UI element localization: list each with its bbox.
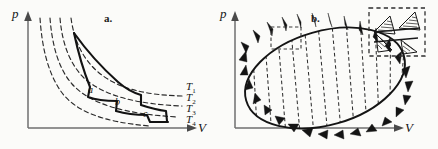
- panel-b-label: b.: [311, 12, 320, 24]
- cycle-point-label-b: b: [115, 96, 120, 107]
- panel-a-cycle: [74, 33, 168, 122]
- inset-arrow-shapes: [374, 12, 420, 54]
- panel-b-axes: [231, 11, 404, 132]
- panel-a-x-axis-label: V: [198, 120, 206, 136]
- panel-b-y-axis-label: p: [220, 6, 227, 22]
- isotherm-label-t4: T4: [186, 113, 196, 128]
- x-axis-arrowhead: [394, 124, 404, 132]
- panel-a-label: a.: [104, 12, 112, 24]
- isotherm-curve-2: [60, 18, 182, 106]
- figure-container: a. p V T1 T2 T3 T4 a b c: [0, 0, 438, 149]
- panel-b-x-axis-label: V: [405, 120, 413, 136]
- isotherm-curve-3: [50, 18, 178, 117]
- panel-a: a. p V T1 T2 T3 T4 a b c: [0, 0, 219, 149]
- isotherm-label-t4-sub: 4: [192, 120, 196, 128]
- cycle-point-label-c: c: [143, 108, 147, 119]
- panel-a-y-axis-label: p: [12, 6, 19, 22]
- inset-detail: [369, 8, 425, 56]
- panel-b: b. p V: [219, 0, 438, 149]
- cycle-point-label-a: a: [88, 84, 93, 95]
- y-axis-arrowhead: [231, 11, 239, 21]
- cycle-upper-path: [74, 33, 167, 121]
- y-axis-arrowhead: [24, 11, 32, 21]
- isotherm-curve-4: [40, 18, 150, 126]
